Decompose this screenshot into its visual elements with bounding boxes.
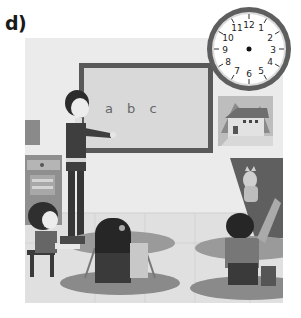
clock-number-2: 2 (267, 33, 273, 43)
exercise-label: d) (5, 12, 26, 34)
clock-number-9: 9 (222, 45, 228, 55)
clock-number-7: 7 (234, 66, 240, 76)
clock-number-6: 6 (246, 69, 252, 79)
clock-number-8: 8 (225, 57, 231, 67)
clock-number-10: 10 (222, 33, 234, 43)
board-text: a b c (105, 101, 162, 116)
clock-number-11: 11 (231, 23, 242, 33)
clock-number-12: 12 (243, 20, 254, 30)
clock-number-4: 4 (267, 57, 273, 67)
clock-number-5: 5 (258, 66, 264, 76)
clock-number-3: 3 (270, 45, 276, 55)
clock-number-1: 1 (258, 23, 264, 33)
house-picture (218, 96, 273, 146)
clock-center-dot (247, 47, 252, 52)
clock-face: 12 1 2 3 4 5 6 7 8 9 10 11 (206, 6, 292, 92)
wall-clock: 12 1 2 3 4 5 6 7 8 9 10 11 (206, 6, 292, 92)
